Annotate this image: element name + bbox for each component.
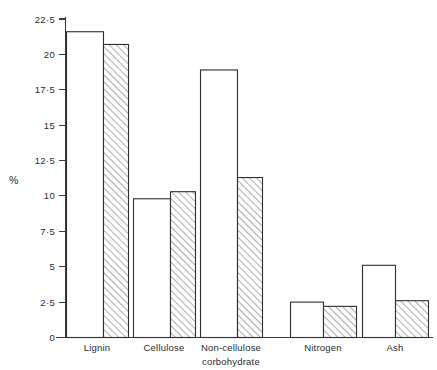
y-tick-label: 12·5 xyxy=(35,155,55,166)
category-label-line2: corbohydrate xyxy=(202,356,260,367)
category-label: Cellulose xyxy=(144,342,185,353)
bar-chart-figure: 02·557·51012·51517·52022·5 % LigninCellu… xyxy=(0,0,437,370)
y-tick-label: 0 xyxy=(49,332,55,343)
chart-canvas: 02·557·51012·51517·52022·5 % LigninCellu… xyxy=(0,0,437,370)
y-axis: 02·557·51012·51517·52022·5 xyxy=(35,14,66,344)
y-tick-label: 15 xyxy=(44,120,55,131)
category-label: Lignin xyxy=(84,342,111,353)
bar-hatched xyxy=(324,306,357,337)
y-tick-label: 22·5 xyxy=(35,14,55,25)
y-tick-label: 10 xyxy=(44,190,55,201)
bar-open xyxy=(363,265,396,337)
bar-open xyxy=(134,199,171,338)
y-tick-label: 5 xyxy=(49,261,55,272)
y-tick-label: 17·5 xyxy=(35,84,55,95)
y-axis-title: % xyxy=(9,174,18,186)
bar-hatched xyxy=(104,44,129,337)
category-label: Nitrogen xyxy=(304,342,342,353)
category-label: Non-cellulose xyxy=(201,342,261,353)
bar-open xyxy=(201,70,238,338)
y-tick-label: 7·5 xyxy=(40,226,55,237)
y-axis-ticks: 02·557·51012·51517·52022·5 xyxy=(35,14,66,344)
bar-hatched xyxy=(396,301,429,338)
bar-open xyxy=(291,302,324,337)
y-tick-label: 20 xyxy=(44,49,55,60)
category-label: Ash xyxy=(387,342,404,353)
y-tick-label: 2·5 xyxy=(40,297,55,308)
bar-hatched xyxy=(171,192,196,338)
bars-layer xyxy=(67,32,429,338)
category-labels-layer: LigninCelluloseNon-cellulosecorbohydrate… xyxy=(84,342,404,367)
bar-open xyxy=(67,32,104,338)
bar-hatched xyxy=(238,178,263,338)
